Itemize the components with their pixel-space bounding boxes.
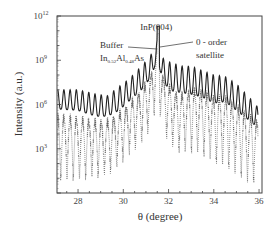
annotation-buffer-composition: In0.52 Al0.48 As <box>100 53 145 64</box>
x-tick-label: 32 <box>164 196 173 206</box>
simulated-curve <box>58 34 258 183</box>
x-tick-label: 28 <box>74 196 84 206</box>
annotation-inp004: InP(004) <box>140 22 172 32</box>
x-tick-label: 30 <box>119 196 129 206</box>
y-tick-label: 109 <box>35 54 47 65</box>
x-tick-labels: 2830323436 <box>74 196 265 206</box>
annotation-buffer: Buffer <box>100 40 123 50</box>
x-tick-label: 34 <box>209 196 219 206</box>
satellite-pointer-line <box>160 42 193 47</box>
y-tick-label: 103 <box>35 143 47 154</box>
y-tick-label: 106 <box>35 99 47 110</box>
annotation-zero-order: 0 - order <box>196 37 227 47</box>
measured-curve <box>58 26 258 124</box>
y-axis-title: Intensity (a.u.) <box>12 71 25 136</box>
y-tick-labels: 1031061091012 <box>34 10 49 154</box>
data-series <box>58 26 258 182</box>
annotation-satellite: satellite <box>196 50 224 60</box>
y-tick-label: 1012 <box>34 10 49 21</box>
x-axis-title: θ (degree) <box>138 210 183 223</box>
buffer-pointer-line <box>128 47 157 49</box>
x-tick-label: 36 <box>255 196 265 206</box>
xrd-chart: 2830323436 1031061091012 θ (degree) Inte… <box>0 0 274 234</box>
